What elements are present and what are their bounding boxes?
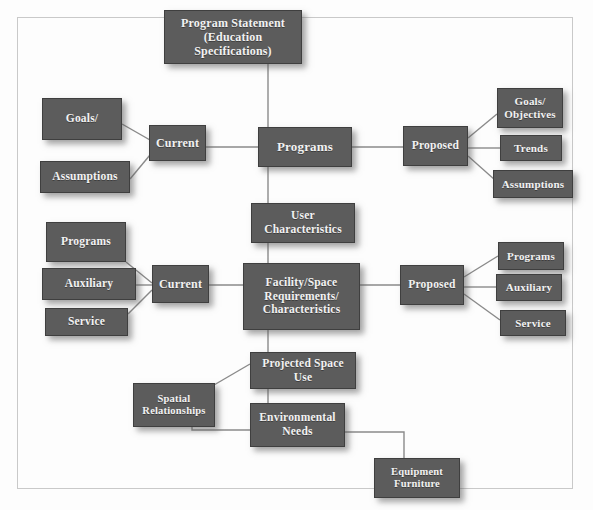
node-service-right[interactable]: Service <box>500 310 566 336</box>
node-service-left[interactable]: Service <box>45 308 128 336</box>
node-assumptions-right[interactable]: Assumptions <box>493 170 573 198</box>
node-programs-label: Programs <box>262 139 348 154</box>
edge-goals-to-current-top <box>122 124 150 140</box>
node-assumptions-left[interactable]: Assumptions <box>40 161 130 193</box>
node-assumptions-left-label: Assumptions <box>44 170 126 184</box>
node-program-statement-label: Program Statement (Education Specificati… <box>168 16 298 58</box>
edge-proposed-top-to-goals-objectives <box>468 114 497 138</box>
node-programs-right[interactable]: Programs <box>498 242 564 270</box>
node-service-right-label: Service <box>504 317 562 330</box>
node-proposed-top[interactable]: Proposed <box>403 126 468 166</box>
node-proposed-bottom-label: Proposed <box>404 278 460 292</box>
edge-proposed-top-to-assumptions-right <box>468 156 495 180</box>
node-goals-left-label: Goals/ <box>46 112 118 126</box>
node-service-left-label: Service <box>49 315 124 329</box>
node-current-top-label: Current <box>153 136 202 150</box>
edge-spatial-relationships-to-projected-space-use <box>214 364 250 385</box>
edge-spatial-relationships-to-environmental-needs <box>192 427 250 430</box>
node-facility-space[interactable]: Facility/Space Requirements/ Characteris… <box>243 263 360 330</box>
node-program-statement[interactable]: Program Statement (Education Specificati… <box>164 10 302 64</box>
node-assumptions-right-label: Assumptions <box>497 178 569 191</box>
node-goals-left[interactable]: Goals/ <box>42 98 122 140</box>
node-current-bottom-label: Current <box>156 277 205 291</box>
node-user-characteristics-label: User Characteristics <box>255 209 351 236</box>
node-spatial-relationships-label: Spatial Relationships <box>137 393 211 418</box>
node-current-top[interactable]: Current <box>149 125 206 161</box>
node-goals-objectives[interactable]: Goals/ Objectives <box>497 88 563 128</box>
diagram-canvas: Program Statement (Education Specificati… <box>0 0 593 510</box>
edge-assumptions-to-current-top <box>130 155 150 179</box>
node-environmental-needs-label: Environmental Needs <box>254 411 341 438</box>
edge-proposed-bottom-to-programs-right <box>464 256 498 277</box>
node-spatial-relationships[interactable]: Spatial Relationships <box>133 383 215 427</box>
node-equipment-furniture[interactable]: Equipment Furniture <box>374 458 460 498</box>
node-equipment-furniture-label: Equipment Furniture <box>378 466 456 491</box>
node-auxiliary-right[interactable]: Auxiliary <box>496 274 562 301</box>
node-auxiliary-left-label: Auxiliary <box>46 277 132 291</box>
node-goals-objectives-label: Goals/ Objectives <box>501 95 559 121</box>
node-environmental-needs[interactable]: Environmental Needs <box>250 403 345 447</box>
node-current-bottom[interactable]: Current <box>152 265 209 303</box>
node-projected-space-use-label: Projected Space Use <box>254 357 352 384</box>
node-programs-left[interactable]: Programs <box>46 222 126 262</box>
node-programs[interactable]: Programs <box>258 127 352 167</box>
node-programs-left-label: Programs <box>50 235 122 249</box>
node-trends[interactable]: Trends <box>500 135 562 161</box>
node-auxiliary-right-label: Auxiliary <box>500 281 558 294</box>
node-projected-space-use[interactable]: Projected Space Use <box>250 352 356 389</box>
node-user-characteristics[interactable]: User Characteristics <box>251 203 355 243</box>
node-auxiliary-left[interactable]: Auxiliary <box>42 268 136 300</box>
node-proposed-top-label: Proposed <box>407 139 464 153</box>
diagram-layer: Program Statement (Education Specificati… <box>0 0 593 510</box>
edge-environmental-needs-to-equipment-furniture <box>345 432 404 458</box>
node-facility-space-label: Facility/Space Requirements/ Characteris… <box>247 276 356 317</box>
node-proposed-bottom[interactable]: Proposed <box>400 265 464 305</box>
node-trends-label: Trends <box>504 142 558 155</box>
edge-proposed-bottom-to-service-right <box>464 294 500 320</box>
node-programs-right-label: Programs <box>502 250 560 263</box>
